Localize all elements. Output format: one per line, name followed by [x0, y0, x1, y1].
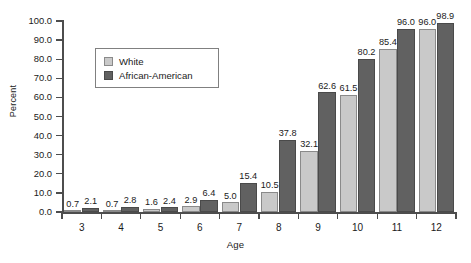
bar-group: 96.098.9 [417, 21, 456, 212]
x-axis-tick [337, 212, 338, 219]
bar-african-american-7 [240, 183, 258, 212]
x-axis-tick [455, 212, 456, 219]
x-axis-tick [416, 212, 417, 219]
y-axis-tick [56, 59, 64, 60]
x-axis-tick [180, 212, 181, 219]
chart-legend: White African-American [95, 48, 219, 88]
bar-group: 10.537.8 [259, 21, 298, 212]
y-axis-tick-label: 30.0 [14, 150, 52, 159]
x-axis-tick-label: 11 [377, 222, 417, 233]
y-axis-tick-label: 100.0 [14, 16, 52, 25]
x-axis-tick [377, 212, 378, 219]
bar-white-8 [261, 192, 279, 212]
y-axis-tick [56, 211, 64, 212]
x-axis-tick [298, 212, 299, 219]
bar-value-label: 15.4 [235, 172, 263, 181]
x-axis-tick-label: 6 [180, 222, 220, 233]
y-axis-tick [56, 116, 64, 117]
y-axis-tick-label: 50.0 [14, 112, 52, 121]
x-axis-tick [61, 212, 62, 219]
bar-value-label: 98.9 [432, 12, 460, 21]
y-axis-tick [56, 20, 64, 21]
bar-chart: Percent 0.010.020.030.040.050.060.070.08… [0, 0, 471, 263]
y-axis-tick [56, 173, 64, 174]
bar-african-american-11 [397, 29, 415, 212]
x-axis-tick-label: 9 [298, 222, 338, 233]
bar-group: 32.162.6 [298, 21, 337, 212]
bar-value-label: 80.2 [353, 48, 381, 57]
bar-african-american-12 [437, 23, 455, 212]
y-axis-tick-label: 60.0 [14, 92, 52, 101]
y-axis-tick-label: 10.0 [14, 188, 52, 197]
x-axis-tick-label: 3 [62, 222, 102, 233]
y-axis-tick-label: 0.0 [14, 207, 52, 216]
y-axis-tick [56, 39, 64, 40]
bar-group: 85.496.0 [377, 21, 416, 212]
y-axis-tick [56, 192, 64, 193]
x-axis-tick [219, 212, 220, 219]
x-axis-tick [258, 212, 259, 219]
x-axis-tick-label: 4 [101, 222, 141, 233]
y-axis-tick-label: 80.0 [14, 54, 52, 63]
y-axis-tick [56, 135, 64, 136]
legend-label-african-american: African-American [119, 70, 193, 81]
bar-group: 5.015.4 [220, 21, 259, 212]
bar-african-american-6 [200, 200, 218, 212]
bar-african-american-9 [318, 92, 336, 212]
x-axis-tick-label: 5 [141, 222, 181, 233]
bar-white-7 [222, 202, 240, 212]
bar-african-american-10 [358, 59, 376, 212]
y-axis-tick [56, 97, 64, 98]
x-axis-tick [101, 212, 102, 219]
bar-white-10 [340, 95, 358, 212]
legend-item-african-american: African-American [104, 68, 211, 82]
y-axis-tick-label: 90.0 [14, 35, 52, 44]
bar-african-american-8 [279, 140, 297, 212]
legend-label-white: White [119, 56, 144, 67]
y-axis-tick-labels: 0.010.020.030.040.050.060.070.080.090.01… [12, 0, 52, 263]
x-axis-tick-label: 10 [338, 222, 378, 233]
y-axis-tick [56, 154, 64, 155]
bar-white-9 [300, 151, 318, 212]
y-axis-tick [56, 78, 64, 79]
y-axis-tick-label: 70.0 [14, 73, 52, 82]
legend-item-white: White [104, 54, 211, 68]
bar-value-label: 37.8 [274, 129, 302, 138]
bar-white-12 [419, 29, 437, 212]
y-axis-tick-label: 20.0 [14, 169, 52, 178]
x-axis-tick [140, 212, 141, 219]
x-axis-title: Age [0, 239, 471, 250]
bar-group: 61.580.2 [338, 21, 377, 212]
x-axis-tick-label: 7 [219, 222, 259, 233]
legend-swatch-african-american-icon [104, 71, 113, 80]
x-axis-tick-label: 12 [416, 222, 456, 233]
x-axis-tick-label: 8 [259, 222, 299, 233]
bar-white-11 [379, 49, 397, 212]
legend-swatch-white-icon [104, 57, 113, 66]
y-axis-tick-label: 40.0 [14, 131, 52, 140]
